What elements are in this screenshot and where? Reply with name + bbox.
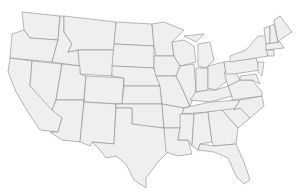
state-nm [80, 102, 116, 146]
state-sd [112, 44, 154, 68]
state-in [196, 68, 208, 92]
us-states-map [0, 0, 300, 196]
state-nd [114, 22, 154, 46]
state-nj [258, 62, 264, 76]
state-ny [230, 36, 268, 62]
state-ks [122, 86, 162, 104]
us-map [0, 0, 300, 196]
state-wy [78, 50, 114, 76]
state-fl [198, 144, 250, 184]
state-co [84, 76, 124, 104]
state-mt [64, 16, 116, 52]
